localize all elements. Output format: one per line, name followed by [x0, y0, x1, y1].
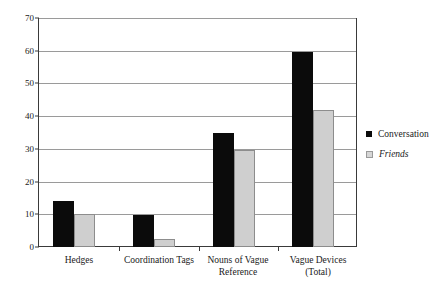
x-axis-label: Coordination Tags	[124, 254, 194, 266]
x-axis-label-line: Coordination Tags	[124, 254, 194, 266]
plot-area: 010203040506070 HedgesCoordination TagsN…	[38, 18, 357, 247]
chart-legend: ConversationFriends	[366, 128, 429, 168]
x-axis-label: Hedges	[65, 254, 94, 266]
bar-group	[278, 18, 358, 247]
bar-chart: 010203040506070 HedgesCoordination TagsN…	[0, 0, 445, 289]
bar-group	[199, 18, 279, 247]
legend-item-friends[interactable]: Friends	[366, 148, 429, 160]
bar-friends-2[interactable]	[234, 150, 255, 247]
x-axis-label-line: Vague Devices	[290, 254, 347, 266]
bar-friends-0[interactable]	[74, 214, 95, 247]
bar-friends-3[interactable]	[313, 110, 334, 247]
legend-swatch-icon	[366, 131, 372, 137]
x-axis-label-line: Reference	[207, 266, 268, 278]
x-axis-label: Vague Devices(Total)	[290, 254, 347, 278]
bar-conversation-1[interactable]	[133, 215, 154, 247]
legend-label: Conversation	[378, 128, 429, 140]
bars-layer	[39, 18, 356, 247]
x-axis-tick-mark	[199, 247, 200, 251]
x-axis-label: Nouns of VagueReference	[207, 254, 268, 278]
x-axis-label-line: (Total)	[290, 266, 347, 278]
bar-group	[119, 18, 199, 247]
x-axis-label-line: Nouns of Vague	[207, 254, 268, 266]
bar-friends-1[interactable]	[154, 239, 175, 247]
bar-conversation-0[interactable]	[53, 201, 74, 247]
x-axis-tick-mark	[119, 247, 120, 251]
bar-conversation-3[interactable]	[292, 52, 313, 247]
x-axis-tick-mark	[278, 247, 279, 251]
x-axis-label-line: Hedges	[65, 254, 94, 266]
legend-label: Friends	[379, 148, 409, 160]
legend-swatch-icon	[366, 151, 373, 158]
legend-item-conversation[interactable]: Conversation	[366, 128, 429, 140]
bar-group	[39, 18, 119, 247]
bar-conversation-2[interactable]	[213, 133, 234, 248]
